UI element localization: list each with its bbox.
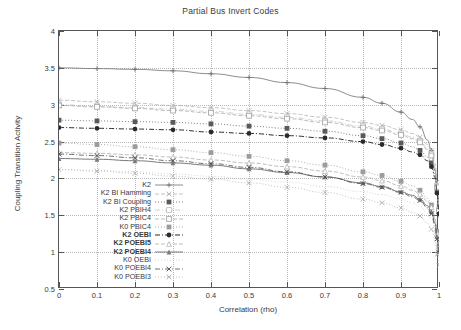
legend-swatch xyxy=(154,248,184,256)
x-tick-label: 0.9 xyxy=(396,291,406,300)
y-tick-mark xyxy=(432,289,437,290)
legend-swatch xyxy=(154,190,184,198)
y-tick-label: 4 xyxy=(51,27,55,36)
x-tick-label: 0.7 xyxy=(320,291,330,300)
x-tick-label: 0.8 xyxy=(358,291,368,300)
y-tick-label: 1.5 xyxy=(45,211,55,220)
y-tick-label: 3.5 xyxy=(45,63,55,72)
chart-figure: Partial Bus Invert Codes Coupling Transi… xyxy=(0,0,461,330)
y-tick-label: 1 xyxy=(51,248,55,257)
y-tick-label: 2.5 xyxy=(45,137,55,146)
x-tick-label: 0.2 xyxy=(130,291,140,300)
y-tick-label: 3 xyxy=(51,100,55,109)
x-tick-mark xyxy=(439,31,440,36)
legend-label: K0 POEBI3 xyxy=(60,273,154,281)
x-tick-mark xyxy=(439,282,440,287)
x-tick-label: 0.1 xyxy=(92,291,102,300)
legend-swatch xyxy=(154,223,184,231)
x-tick-label: 1 xyxy=(437,291,441,300)
legend-swatch xyxy=(154,240,184,248)
legend-swatch xyxy=(154,181,184,189)
y-tick-mark xyxy=(59,289,64,290)
x-tick-label: 0.3 xyxy=(168,291,178,300)
y-tick-label: 0.5 xyxy=(45,285,55,294)
legend-swatch xyxy=(154,231,184,239)
x-tick-label: 0.4 xyxy=(206,291,216,300)
legend-swatch xyxy=(154,256,184,264)
chart-legend: K2K2 BI HammingK2 BI CouplingK2 PBIH4K2 … xyxy=(60,181,184,281)
x-axis-label: Correlation (rho) xyxy=(58,305,438,314)
legend-item[interactable]: K2 POEBI4 xyxy=(60,248,184,256)
legend-swatch xyxy=(154,215,184,223)
x-tick-label: 0.5 xyxy=(244,291,254,300)
y-tick-label: 2 xyxy=(51,174,55,183)
legend-item[interactable]: K0 POEBI3 xyxy=(60,273,184,281)
x-tick-label: 0 xyxy=(57,291,61,300)
y-axis-label: Coupling Transition Activity xyxy=(13,94,22,234)
chart-title: Partial Bus Invert Codes xyxy=(0,6,461,16)
legend-swatch xyxy=(154,198,184,206)
legend-swatch xyxy=(154,273,184,281)
legend-swatch xyxy=(154,206,184,214)
x-tick-label: 0.6 xyxy=(282,291,292,300)
legend-swatch xyxy=(154,265,184,273)
